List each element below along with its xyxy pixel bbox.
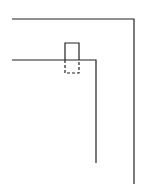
background [0, 0, 143, 189]
diagram-canvas [0, 0, 143, 189]
